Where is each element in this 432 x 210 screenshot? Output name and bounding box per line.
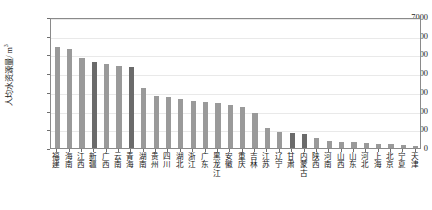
bar (401, 145, 406, 148)
x-axis-tick-label: 陕西 (310, 153, 321, 170)
x-axis-tick-label: 四川 (162, 153, 173, 170)
bar (178, 99, 183, 148)
bar (141, 88, 146, 148)
x-axis-tick-label: 黑龙江 (211, 153, 222, 178)
bar (166, 97, 171, 148)
bar (55, 47, 60, 148)
x-axis-tick-label: 河南 (323, 153, 334, 170)
x-axis-tick-label: 湖南 (137, 153, 148, 170)
x-axis-tick-label: 天津 (409, 153, 420, 170)
bar (364, 143, 369, 148)
x-axis-tick-label: 浙江 (187, 153, 198, 170)
bar (191, 101, 196, 148)
bar (92, 62, 97, 148)
x-axis-tick-label: 湖北 (174, 153, 185, 170)
bar (351, 142, 356, 148)
bar (277, 132, 282, 148)
x-axis-tick-label: 重庆 (236, 153, 247, 170)
bar (265, 128, 270, 148)
bar (67, 49, 72, 148)
x-axis-tick-label: 贵州 (150, 153, 161, 170)
bar (302, 134, 307, 148)
bar-series (51, 19, 420, 148)
bar (104, 64, 109, 148)
bar (413, 146, 418, 148)
y-axis-title-text: 人均水资源量/ m3 (2, 44, 14, 106)
bar (290, 133, 295, 148)
x-axis-tick-label: 福建 (51, 153, 62, 170)
bar (228, 105, 233, 148)
x-axis-tick-label: 江苏 (261, 153, 272, 170)
bar (203, 102, 208, 148)
bar (252, 113, 257, 148)
x-axis-tick-label: 广西 (100, 153, 111, 170)
x-axis-tick-label: 吉林 (249, 153, 260, 170)
bar (154, 96, 159, 148)
bar (339, 142, 344, 148)
x-axis-tick-label: 辽宁 (273, 153, 284, 170)
x-axis-tick-label: 宁夏 (397, 153, 408, 170)
x-axis-tick-label: 江西 (75, 153, 86, 170)
bar (327, 141, 332, 148)
bar (388, 144, 393, 148)
x-axis-tick-label: 甘肃 (286, 153, 297, 170)
x-axis-tick-label: 山东 (347, 153, 358, 170)
bar (129, 67, 134, 148)
x-axis-tick-label: 山西 (335, 153, 346, 170)
bar (215, 103, 220, 148)
y-axis-title: 人均水资源量/ m3 (0, 0, 16, 150)
x-axis-tick-label: 内蒙古 (298, 153, 309, 178)
bar (314, 138, 319, 148)
x-axis-tick-label: 上海 (372, 153, 383, 170)
bar (376, 144, 381, 148)
x-axis-tick-labels: 福建海南江西新疆广西云南青海湖南贵州四川湖北浙江广东黑龙江安徽重庆吉林江苏辽宁甘… (50, 153, 421, 210)
x-axis-tick-label: 北京 (385, 153, 396, 170)
x-axis-tick-label: 云南 (113, 153, 124, 170)
x-axis-tick-label: 安徽 (224, 153, 235, 170)
chart-figure: 人均水资源量/ m3 01000200030004000500060007000… (0, 0, 432, 210)
bar (79, 58, 84, 148)
x-axis-tick-label: 海南 (63, 153, 74, 170)
bar (116, 66, 121, 148)
x-axis-tick-label: 河北 (360, 153, 371, 170)
x-axis-tick-label: 广东 (199, 153, 210, 170)
x-axis-tick-label: 青海 (125, 153, 136, 170)
bar (240, 107, 245, 148)
plot-area (50, 18, 421, 149)
x-axis-tick-label: 新疆 (88, 153, 99, 170)
